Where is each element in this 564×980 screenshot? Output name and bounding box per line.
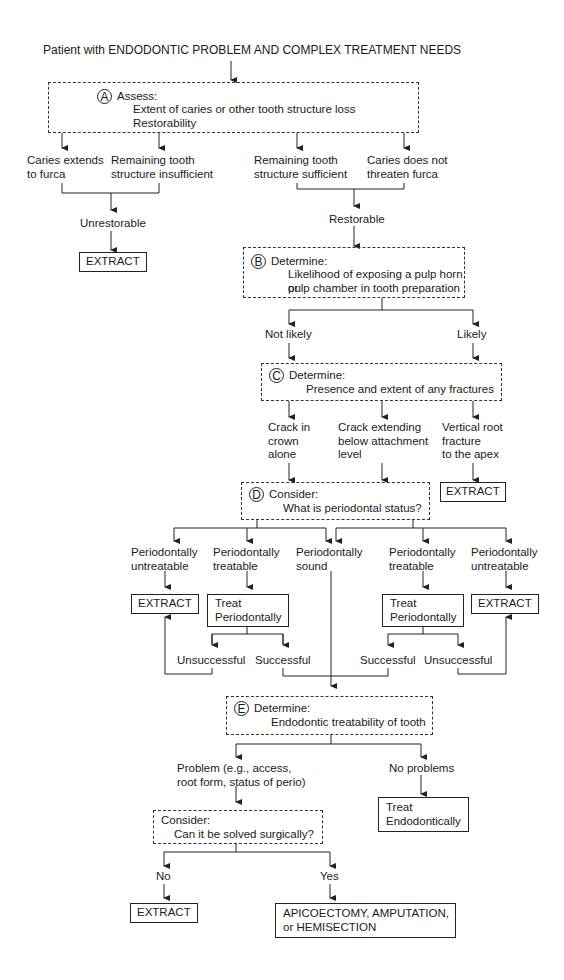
consider-box-d: DConsider: What is periodontal status? [241,482,430,520]
caries-not-threaten-label: Caries does not threaten furca [367,154,448,181]
crack-below-label: Crack extending below attachment level [338,421,428,462]
step-marker-c: C [269,368,284,383]
consider-d-heading: Consider: [269,488,318,500]
extract-box-vertical-root: EXTRACT [440,482,506,502]
perio-treatable-right-label: Periodontally treatable [389,546,455,573]
problem-label: Problem (e.g., access, root form, status… [177,762,305,789]
assess-line-2: Restorability [133,117,196,131]
unsuccessful-right-label: Unsuccessful [424,654,492,668]
surgery-box: APICOECTOMY, AMPUTATION, or HEMISECTION [275,903,456,938]
extract-box-perio-right: EXTRACT [471,594,539,614]
consider-box-surgical: Consider: Can it be solved surgically? [153,810,323,844]
step-marker-e: E [234,701,249,716]
treat-perio-box-right: Treat Periodontally [382,594,464,627]
step-marker-a: A [97,89,112,104]
caries-furca-label: Caries extends to furca [27,154,104,181]
consider-d-line-1: What is periodontal status? [283,502,422,516]
unsuccessful-left-label: Unsuccessful [177,654,245,668]
remaining-sufficient-label: Remaining tooth structure sufficient [254,154,347,181]
determine-c-line-1: Presence and extent of any fractures [306,383,494,397]
successful-right-label: Successful [360,654,416,668]
determine-box-c: CDetermine: Presence and extent of any f… [261,363,502,401]
crack-crown-label: Crack in crown alone [268,421,310,462]
determine-box-b: BDetermine: Likelihood of exposing a pul… [243,247,465,298]
perio-treatable-left-label: Periodontally treatable [213,546,279,573]
flowchart-title: Patient with ENDODONTIC PROBLEM AND COMP… [43,44,461,58]
assess-line-1: Extent of caries or other tooth structur… [133,103,355,117]
perio-untreatable-right-label: Periodontally untreatable [471,546,537,573]
step-marker-b: B [251,254,266,269]
determine-box-e: EDetermine: Endodontic treatability of t… [226,696,433,735]
no-problems-label: No problems [389,762,454,776]
assess-heading: Assess: [117,90,157,102]
determine-b-heading: Determine: [271,255,327,267]
determine-e-line-1: Endodontic treatability of tooth [271,716,426,730]
yes-label: Yes [320,870,339,884]
vertical-root-label: Vertical root fracture to the apex [442,421,503,462]
unrestorable-label: Unrestorable [80,217,146,231]
successful-left-label: Successful [255,654,311,668]
perio-sound-label: Periodontally sound [296,546,362,573]
likely-label: Likely [457,328,486,342]
treat-endo-box: Treat Endodontically [378,797,469,832]
extract-box-unrestorable: EXTRACT [79,252,147,272]
determine-e-heading: Determine: [254,702,310,714]
not-likely-label: Not likely [265,328,312,342]
remaining-insufficient-label: Remaining tooth structure insufficient [111,154,213,181]
determine-c-heading: Determine: [289,369,345,381]
consider-surgical-line-1: Can it be solved surgically? [174,828,314,842]
determine-b-line-2: pulp chamber in tooth preparation [288,282,460,296]
assess-box-a: AAssess: Extent of caries or other tooth… [48,82,419,133]
no-label: No [156,870,171,884]
extract-box-perio-left: EXTRACT [131,594,199,614]
consider-surgical-heading: Consider: [161,814,210,828]
treat-perio-box-left: Treat Periodontally [207,594,289,627]
perio-untreatable-left-label: Periodontally untreatable [131,546,197,573]
extract-box-surgical-no: EXTRACT [130,903,198,923]
step-marker-d: D [249,487,264,502]
restorable-label: Restorable [329,213,385,227]
